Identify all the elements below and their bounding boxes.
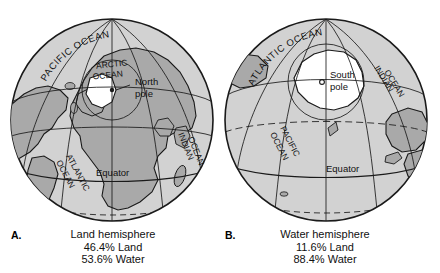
globe-water-hemisphere: ATLANTIC OCEAN INDIAN OCEAN South pole P… — [222, 16, 430, 224]
globe-land-svg: PACIFIC OCEAN ARCTIC OCEAN North pole AT… — [8, 16, 216, 224]
label-equator: Equator — [96, 167, 129, 178]
globe-land-hemisphere: PACIFIC OCEAN ARCTIC OCEAN North pole AT… — [8, 16, 216, 224]
label-north-pole-line1: North — [135, 76, 158, 87]
caption-b-land: 11.6% Land — [222, 241, 428, 254]
north-pole-marker — [110, 88, 114, 92]
figure-two-hemispheres: PACIFIC OCEAN ARCTIC OCEAN North pole AT… — [0, 0, 440, 273]
caption-water-hemisphere: Water hemisphere 11.6% Land 88.4% Water — [222, 228, 428, 266]
caption-a-title: Land hemisphere — [10, 228, 216, 241]
caption-land-hemisphere: Land hemisphere 46.4% Land 53.6% Water — [10, 228, 216, 266]
label-north-pole-line2: pole — [135, 88, 153, 99]
caption-b-title: Water hemisphere — [222, 228, 428, 241]
island-small-pacific — [280, 192, 288, 196]
caption-b-water: 88.4% Water — [222, 253, 428, 266]
label-south-pole-line1: South — [330, 69, 355, 80]
globe-water-svg: ATLANTIC OCEAN INDIAN OCEAN South pole P… — [222, 16, 430, 224]
caption-a-water: 53.6% Water — [10, 253, 216, 266]
island-new-zealand — [412, 182, 422, 198]
label-equator: Equator — [326, 163, 359, 174]
caption-a-land: 46.4% Land — [10, 241, 216, 254]
label-south-pole-line2: pole — [330, 81, 348, 92]
